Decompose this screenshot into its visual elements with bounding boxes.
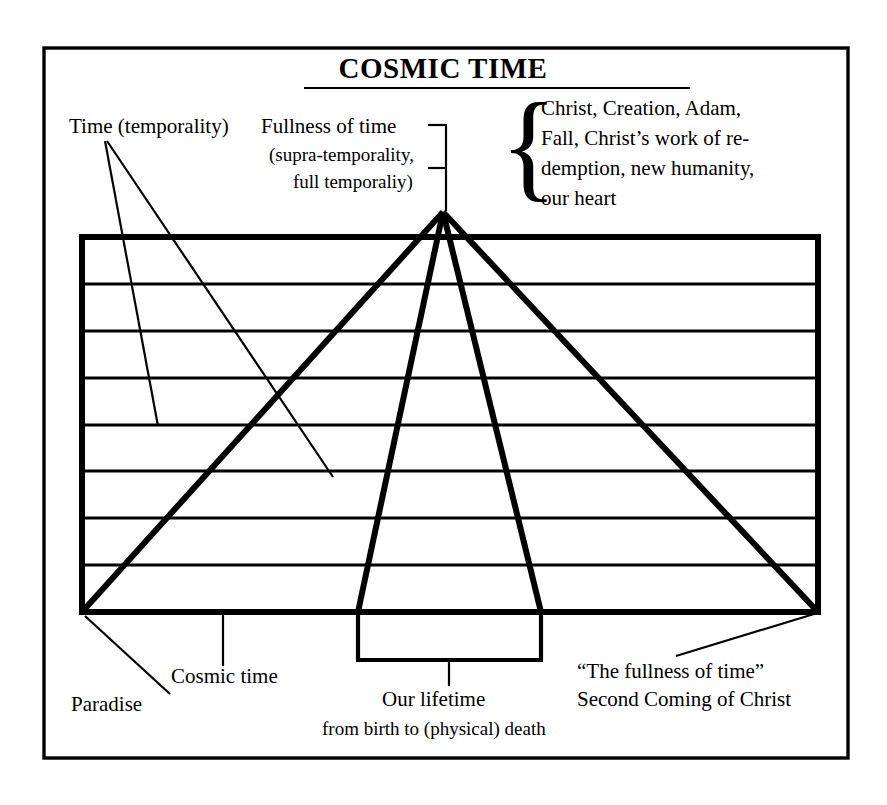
label-fullness-quoted: “The fullness of time”: [577, 659, 764, 683]
outer-triangle-right-leg: [443, 212, 818, 612]
fullness-of-time-bracket: [428, 124, 446, 211]
cosmic-time-diagram: COSMIC TIME: [0, 0, 887, 805]
label-our-lifetime-sub: from birth to (physical) death: [322, 718, 546, 740]
second-coming-leader: [676, 614, 814, 656]
brace-line: Christ, Creation, Adam,: [541, 96, 741, 120]
label-supra-temporality: (supra-temporality,: [269, 144, 414, 166]
label-paradise: Paradise: [71, 692, 142, 716]
our-lifetime-bracket: [356, 612, 543, 686]
brace-line: demption, new humanity,: [541, 156, 754, 180]
label-fullness-of-time: Fullness of time: [261, 114, 396, 138]
label-second-coming: Second Coming of Christ: [577, 687, 791, 711]
label-our-lifetime: Our lifetime: [382, 687, 485, 711]
grid-lines: [82, 284, 818, 565]
paradise-leader: [85, 616, 170, 694]
brace-line: our heart: [541, 186, 616, 210]
cosmic-time-figure: COSMIC TIME: [0, 0, 887, 805]
outer-triangle: [82, 212, 818, 612]
brace-line: Fall, Christ’s work of re-: [541, 126, 749, 150]
brace-text-block: Christ, Creation, Adam, Fall, Christ’s w…: [541, 96, 754, 210]
outer-triangle-left-leg: [82, 212, 443, 612]
inner-triangle-left-leg: [358, 212, 443, 612]
label-full-temporality: full temporaliy): [293, 171, 413, 193]
inner-triangle-right-leg: [443, 212, 541, 612]
label-cosmic-time: Cosmic time: [171, 664, 278, 688]
label-time-temporality: Time (temporality): [69, 114, 229, 138]
